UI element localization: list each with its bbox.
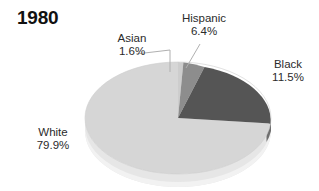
slice-label-white-value: 79.9% (22, 139, 84, 152)
slice-label-hispanic-name: Hispanic (173, 12, 235, 25)
slice-label-asian-value: 1.6% (103, 45, 161, 58)
pie-chart-graphic (0, 0, 319, 191)
slice-label-asian: Asian 1.6% (103, 32, 161, 58)
slice-label-black-name: Black (261, 58, 315, 71)
slice-label-asian-name: Asian (103, 32, 161, 45)
slice-label-white-name: White (22, 126, 84, 139)
pie-chart-figure: 1980 (0, 0, 319, 191)
slice-label-black: Black 11.5% (261, 58, 315, 84)
pie-top-face (85, 62, 271, 174)
slice-label-hispanic-value: 6.4% (173, 25, 235, 38)
slice-label-hispanic: Hispanic 6.4% (173, 12, 235, 38)
slice-label-black-value: 11.5% (261, 71, 315, 84)
slice-label-white: White 79.9% (22, 126, 84, 152)
